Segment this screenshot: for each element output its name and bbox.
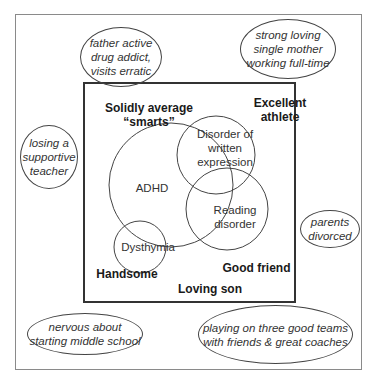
context-middle-school: nervous about starting middle school [27,313,143,355]
context-mother: strong loving single mother working full… [240,19,336,79]
strength-good-friend: Good friend [219,261,294,275]
condition-reading-disorder: Reading disorder [205,203,265,231]
condition-written-expression: Disorder of written expression [185,127,265,169]
condition-dysthymia: Dysthymia [118,240,178,254]
context-teacher: losing a supportive teacher [20,125,78,189]
strength-loving-son: Loving son [170,282,250,296]
condition-adhd: ADHD [130,181,174,195]
context-father: father active drug addict, visits errati… [80,27,162,87]
strength-athlete: Excellent athlete [240,96,320,124]
context-divorce: parents divorced [300,210,360,248]
strength-smarts: Solidly average “smarts” [94,101,204,129]
context-teams: playing on three good teams with friends… [198,305,353,364]
strength-handsome: Handsome [92,267,162,281]
